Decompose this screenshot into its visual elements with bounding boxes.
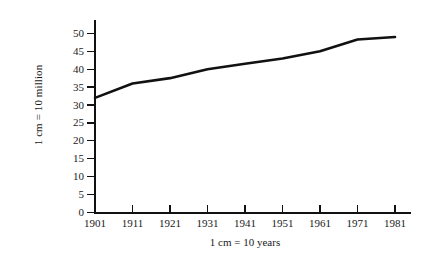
y-axis-tick [87, 158, 95, 159]
population-line [95, 37, 395, 98]
y-axis-tick [87, 122, 95, 123]
x-axis-tick-label-text: 1901 [75, 217, 115, 230]
x-axis-tick-label-text: 1911 [113, 217, 153, 230]
y-axis-tick [87, 86, 95, 87]
x-axis-tick-label: 1961 [300, 217, 340, 230]
y-axis-tick-label: 20 [58, 135, 84, 146]
x-axis-tick [319, 205, 320, 213]
y-axis-tick [87, 33, 95, 34]
y-axis-tick-label-text: 25 [60, 117, 84, 128]
y-axis-tick-label-text: 40 [60, 64, 84, 75]
x-axis-tick-label: 1921 [150, 217, 190, 230]
y-axis-tick-label-text: 50 [60, 28, 84, 39]
x-axis-tick-label: 1911 [113, 217, 153, 230]
y-axis-tick-label-text: 35 [60, 82, 84, 93]
y-axis-title: 1 cm = 10 million [30, 5, 46, 205]
x-axis-tick-label: 1941 [225, 217, 265, 230]
x-axis-tick-label-text: 1951 [263, 217, 303, 230]
x-axis-tick-label: 1931 [188, 217, 228, 230]
x-axis-tick-label: 1981 [375, 217, 415, 230]
y-axis-tick-label: 50 [58, 28, 84, 39]
y-axis-tick [87, 176, 95, 177]
y-axis-tick [87, 69, 95, 70]
y-axis-tick-label-text: 30 [60, 100, 84, 111]
x-axis-tick-label-text: 1971 [338, 217, 378, 230]
y-axis-tick-label-text: 10 [60, 171, 84, 182]
chart-figure: 1 cm = 10 million 05101520253035404550 1… [0, 0, 437, 267]
y-axis-tick [87, 140, 95, 141]
y-axis-tick-label: 10 [58, 171, 84, 182]
x-axis-title: 1 cm = 10 years [95, 236, 395, 249]
x-axis-tick-label-text: 1931 [188, 217, 228, 230]
x-axis-tick [132, 205, 133, 213]
x-axis-tick [207, 205, 208, 213]
y-axis-tick-label: 15 [58, 153, 84, 164]
x-axis-tick [282, 205, 283, 213]
y-axis-tick [87, 194, 95, 195]
y-axis-tick-label: 35 [58, 82, 84, 93]
x-axis-tick-label: 1971 [338, 217, 378, 230]
y-axis-tick-label: 40 [58, 64, 84, 75]
y-axis-tick-label: 5 [58, 189, 84, 200]
x-axis-tick-label-text: 1981 [375, 217, 415, 230]
y-axis-tick-label-text: 20 [60, 135, 84, 146]
x-axis-line [94, 212, 411, 214]
x-axis-tick-label-text: 1921 [150, 217, 190, 230]
x-axis-tick [244, 205, 245, 213]
y-axis-tick [87, 51, 95, 52]
x-axis-tick-label: 1901 [75, 217, 115, 230]
y-axis-tick-label-text: 45 [60, 46, 84, 57]
x-axis-tick-label: 1951 [263, 217, 303, 230]
x-axis-tick-label-text: 1961 [300, 217, 340, 230]
x-axis-tick [394, 205, 395, 213]
y-axis-tick-label: 45 [58, 46, 84, 57]
y-axis-tick-label-text: 15 [60, 153, 84, 164]
x-axis-tick [169, 205, 170, 213]
y-axis-tick [87, 104, 95, 105]
x-axis-tick-label-text: 1941 [225, 217, 265, 230]
y-axis-tick-label-text: 5 [60, 189, 84, 200]
y-axis-tick-label: 25 [58, 117, 84, 128]
x-axis-tick [94, 205, 95, 213]
x-axis-tick [357, 205, 358, 213]
y-axis-tick-label: 30 [58, 100, 84, 111]
y-axis-line [94, 20, 96, 214]
